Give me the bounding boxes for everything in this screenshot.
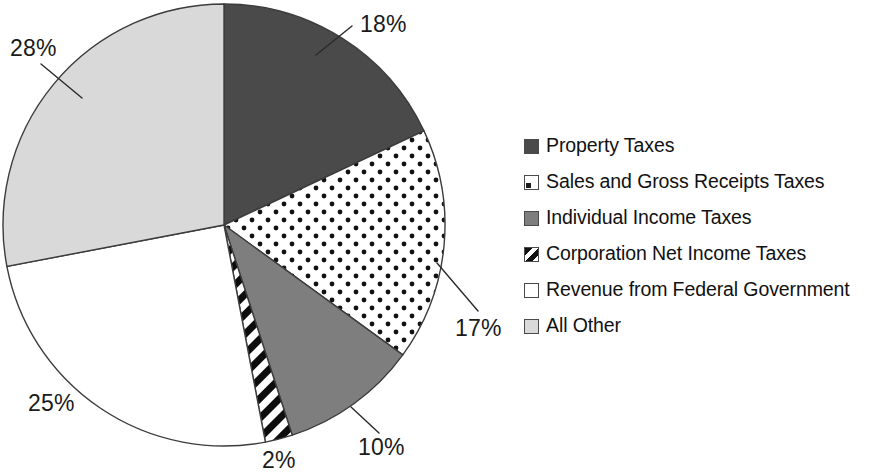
legend-item[interactable]: Corporation Net Income Taxes bbox=[524, 236, 884, 272]
leader-line bbox=[351, 407, 379, 433]
legend-swatch-icon bbox=[524, 247, 539, 262]
legend-swatch-icon bbox=[524, 319, 539, 334]
leader-line bbox=[437, 263, 478, 311]
legend-item[interactable]: Individual Income Taxes bbox=[524, 200, 884, 236]
pie-chart-figure: 18%17%10%2%25%28% Property TaxesSales an… bbox=[0, 0, 889, 472]
legend-item[interactable]: Revenue from Federal Government bbox=[524, 272, 884, 308]
legend-swatch-icon bbox=[524, 211, 539, 226]
legend-item-label: Revenue from Federal Government bbox=[546, 280, 850, 300]
slice-percentage-label: 28% bbox=[10, 35, 57, 61]
slice-percentage-label: 2% bbox=[262, 447, 296, 472]
legend-swatch-icon bbox=[524, 283, 539, 298]
legend-item-label: All Other bbox=[546, 316, 621, 336]
slice-percentage-label: 25% bbox=[28, 390, 75, 416]
legend-swatch-icon bbox=[524, 139, 539, 154]
pie-chart-svg: 18%17%10%2%25%28% bbox=[0, 0, 510, 472]
legend-item[interactable]: Sales and Gross Receipts Taxes bbox=[524, 164, 884, 200]
legend-item-label: Individual Income Taxes bbox=[546, 208, 751, 228]
legend-item-label: Property Taxes bbox=[546, 136, 674, 156]
slice-percentage-label: 18% bbox=[360, 11, 407, 37]
legend-item[interactable]: Property Taxes bbox=[524, 128, 884, 164]
legend-item[interactable]: All Other bbox=[524, 308, 884, 344]
chart-legend: Property TaxesSales and Gross Receipts T… bbox=[524, 128, 884, 344]
legend-item-label: Sales and Gross Receipts Taxes bbox=[546, 172, 824, 192]
slice-percentage-label: 17% bbox=[455, 315, 502, 341]
legend-swatch-icon bbox=[524, 175, 539, 190]
pie-slices bbox=[3, 4, 445, 446]
legend-item-label: Corporation Net Income Taxes bbox=[546, 244, 806, 264]
slice-percentage-label: 10% bbox=[358, 434, 405, 460]
